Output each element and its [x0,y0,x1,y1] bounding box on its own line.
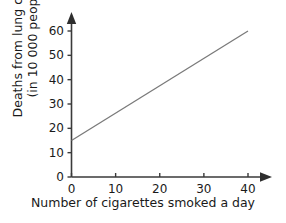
y-tick-label: 10 [30,147,64,159]
x-axis-arrow-icon [260,172,272,181]
y-tick-label: 0 [30,171,64,183]
y-axis-arrow-icon [67,12,76,24]
x-axis-title: Number of cigarettes smoked a day [0,196,286,210]
x-tick-label: 30 [196,183,211,195]
x-tick-label: 20 [152,183,167,195]
x-tick-label: 10 [108,183,123,195]
series-line [72,31,249,141]
x-tick-label: 0 [68,183,76,195]
y-tick-label: 20 [30,122,64,134]
y-axis-title: Deaths from lung cancer (in 10 000 peopl… [10,0,46,120]
data-series-group [72,31,249,141]
line-chart: 0102030405060 010203040 Deaths from lung… [0,0,286,223]
x-axis [72,172,273,181]
y-axis-title-line-1: Deaths from lung cancer [10,0,25,120]
y-axis-title-line-2: (in 10 000 people) [25,0,40,120]
x-tick-label: 40 [240,183,255,195]
